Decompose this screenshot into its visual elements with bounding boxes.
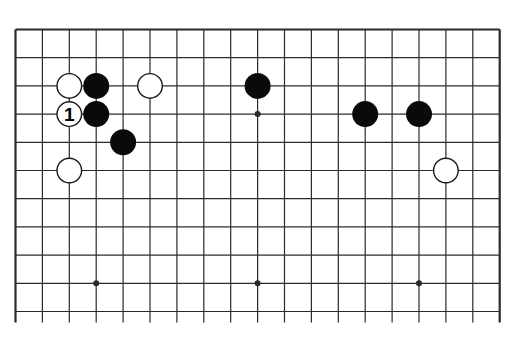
white-stone — [138, 74, 163, 99]
star-point — [255, 111, 261, 117]
star-point — [416, 280, 422, 286]
black-stone — [83, 101, 109, 127]
white-stone — [57, 74, 82, 99]
white-stone-move-1: 1 — [57, 102, 82, 127]
go-board: 1 — [0, 0, 518, 342]
star-point — [93, 280, 99, 286]
white-stone — [57, 158, 82, 183]
black-stone — [352, 101, 378, 127]
move-number-label: 1 — [64, 104, 75, 125]
black-stone — [245, 73, 271, 99]
black-stone — [406, 101, 432, 127]
black-stone — [110, 129, 136, 155]
go-board-diagram: 1 — [0, 0, 518, 342]
black-stone — [83, 73, 109, 99]
white-stone — [434, 158, 459, 183]
star-point — [255, 280, 261, 286]
